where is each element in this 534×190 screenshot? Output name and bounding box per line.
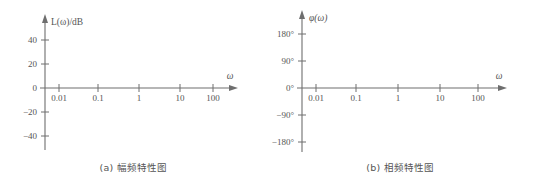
phase-plot-svg: 180° 90° 0° −90° −180° 0.01 0.1 1 10 100… — [267, 0, 534, 160]
magnitude-xtick-label-10: 10 — [176, 93, 186, 103]
magnitude-ytick-label-40: 40 — [28, 35, 38, 45]
phase-ytick-label-minus90: −90° — [276, 110, 294, 120]
magnitude-x-axis-label: ω — [227, 71, 234, 81]
magnitude-plot-panel: 40 20 0 −20 −40 0.01 0.1 1 10 100 L(ω)/d… — [0, 0, 267, 190]
bode-plot-figure-pair: 40 20 0 −20 −40 0.01 0.1 1 10 100 L(ω)/d… — [0, 0, 534, 190]
magnitude-xtick-label-100: 100 — [206, 93, 220, 103]
phase-xtick-label-10: 10 — [436, 93, 446, 103]
phase-ytick-label-90: 90° — [281, 56, 294, 66]
phase-ytick-label-minus180: −180° — [272, 137, 295, 147]
phase-y-axis-label: φ(ω) — [309, 13, 327, 24]
magnitude-ytick-label-20: 20 — [28, 59, 38, 69]
magnitude-xtick-label-1: 1 — [137, 93, 142, 103]
magnitude-plot-caption: (a) 幅频特性图 — [0, 160, 267, 174]
phase-plot-caption: (b) 相频特性图 — [267, 160, 534, 174]
magnitude-ytick-label-minus40: −40 — [23, 131, 38, 141]
magnitude-xtick-label-0-01: 0.01 — [51, 93, 67, 103]
magnitude-y-axis — [42, 14, 48, 150]
phase-y-axis — [299, 10, 305, 152]
phase-plot-panel: 180° 90° 0° −90° −180° 0.01 0.1 1 10 100… — [267, 0, 534, 190]
phase-xtick-label-100: 100 — [471, 93, 485, 103]
magnitude-xtick-label-0-1: 0.1 — [92, 93, 103, 103]
magnitude-ytick-label-0: 0 — [33, 83, 38, 93]
phase-xtick-label-0-01: 0.01 — [308, 93, 324, 103]
magnitude-ytick-label-minus20: −20 — [23, 107, 38, 117]
phase-xtick-label-1: 1 — [396, 93, 401, 103]
phase-x-axis-label: ω — [496, 71, 503, 81]
phase-ytick-label-0: 0° — [286, 83, 295, 93]
phase-ytick-label-180: 180° — [277, 29, 295, 39]
phase-xtick-label-0-1: 0.1 — [350, 93, 361, 103]
phase-x-axis — [297, 85, 507, 91]
magnitude-y-axis-label: L(ω)/dB — [51, 17, 83, 28]
magnitude-plot-svg: 40 20 0 −20 −40 0.01 0.1 1 10 100 L(ω)/d… — [0, 0, 267, 160]
